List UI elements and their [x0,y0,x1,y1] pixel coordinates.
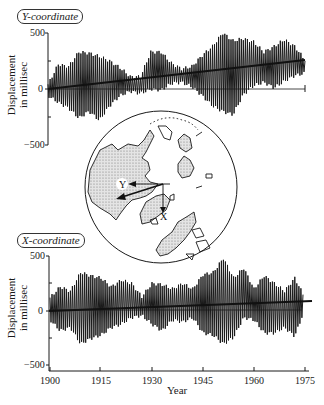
bottom-ylabel-line2: in millisec [17,268,29,348]
bottom-ytick-500: 500 [30,251,45,261]
top-chart-title: Y-coordinate [17,9,83,24]
figure-canvas: Y X [0,0,324,405]
x-axis-label: Year [167,385,187,395]
xtick-1915: 1915 [91,376,111,386]
bottom-title-text: X-coordinate [22,234,80,246]
top-ytick-500: 500 [30,28,45,38]
xtick-1930: 1930 [142,376,162,386]
xtick-1975: 1975 [295,376,315,386]
top-ylabel: Displacement in millisec [5,45,31,125]
bottom-ytick-neg500: −500 [24,360,45,370]
xtick-1900: 1900 [40,376,60,386]
top-title-text: Y-coordinate [22,10,78,22]
top-ytick-0: 0 [38,84,43,94]
map-y-label: Y [119,179,126,190]
xtick-1960: 1960 [244,376,264,386]
bottom-ytick-0: 0 [38,306,43,316]
top-ylabel-line2: in millisec [17,45,29,125]
xtick-1945: 1945 [193,376,213,386]
polar-map: Y X [85,111,237,263]
top-ytick-neg500: −500 [24,140,45,150]
top-ylabel-line1: Displacement [5,45,17,125]
bottom-ylabel: Displacement in millisec [5,268,31,348]
bottom-ylabel-line1: Displacement [5,268,17,348]
map-x-label: X [160,211,168,222]
bottom-chart-title: X-coordinate [17,233,85,248]
top-chart-oscillation [48,34,305,120]
